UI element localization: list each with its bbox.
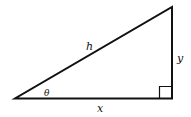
right-triangle-diagram: h y θ x [0,0,191,117]
right-angle-marker [160,87,173,99]
adjacent-side-label: x [97,102,104,115]
angle-theta-label: θ [44,88,50,98]
hypotenuse-label: h [86,40,93,53]
opposite-side-label: y [176,52,184,65]
triangle-shape [15,7,172,99]
